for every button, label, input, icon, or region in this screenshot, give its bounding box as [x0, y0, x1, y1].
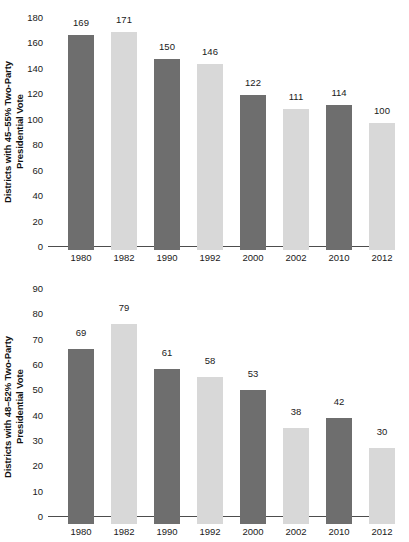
y-tick-bottom-10: 10 — [32, 485, 43, 496]
bar-bottom-2002[interactable] — [283, 428, 309, 524]
x-tick-top-2002: 2002 — [276, 252, 316, 263]
chart-panel-top: Districts with 45–55% Two-Party Presiden… — [0, 0, 409, 280]
bar-value-label-top-2000: 122 — [233, 77, 273, 88]
y-axis-title-bottom: Districts with 48–52% Two-Party Presiden… — [2, 292, 25, 522]
bar-value-label-top-1990: 150 — [147, 41, 187, 52]
bar-top-2012[interactable] — [369, 123, 395, 250]
y-tick-top-0: 0 — [38, 241, 43, 252]
y-axis-title-top: Districts with 45–55% Two-Party Presiden… — [2, 18, 25, 246]
bar-value-label-top-1980: 169 — [61, 17, 101, 28]
two-panel-bar-chart-figure: Districts with 45–55% Two-Party Presiden… — [0, 0, 409, 542]
x-tick-top-1990: 1990 — [147, 252, 187, 263]
bar-slot-top-2012 — [362, 14, 402, 250]
bar-value-label-top-1992: 146 — [190, 46, 230, 57]
bar-bottom-1982[interactable] — [111, 324, 137, 524]
y-tick-bottom-40: 40 — [32, 409, 43, 420]
bar-value-label-bottom-2002: 38 — [276, 406, 316, 417]
bar-top-1982[interactable] — [111, 32, 137, 250]
bar-value-label-bottom-1992: 58 — [190, 355, 230, 366]
bar-top-2010[interactable] — [326, 105, 352, 250]
x-tick-top-1982: 1982 — [104, 252, 144, 263]
x-tick-top-2000: 2000 — [233, 252, 273, 263]
bar-value-label-bottom-2000: 53 — [233, 368, 273, 379]
y-tick-bottom-60: 60 — [32, 359, 43, 370]
bar-value-label-bottom-1980: 69 — [61, 327, 101, 338]
bar-bottom-1992[interactable] — [197, 377, 223, 524]
bar-value-label-bottom-1990: 61 — [147, 347, 187, 358]
bar-top-2000[interactable] — [240, 95, 266, 250]
bar-top-1990[interactable] — [154, 59, 180, 250]
bar-value-label-top-2010: 114 — [319, 87, 359, 98]
chart-panel-bottom: Districts with 48–52% Two-Party Presiden… — [0, 280, 409, 542]
y-tick-bottom-70: 70 — [32, 333, 43, 344]
plot-area-top: 020406080100120140160180 169171150146122… — [48, 10, 398, 250]
bar-group-bottom: 6979615853384230 — [48, 284, 392, 524]
x-tick-top-1992: 1992 — [190, 252, 230, 263]
bar-value-label-top-2002: 111 — [276, 91, 316, 102]
plot-area-bottom: 0102030405060708090 6979615853384230 — [48, 284, 398, 524]
bar-value-label-bottom-1982: 79 — [104, 302, 144, 313]
x-tick-bottom-2002: 2002 — [276, 526, 316, 537]
x-tick-top-2010: 2010 — [319, 252, 359, 263]
bar-value-label-bottom-2012: 30 — [362, 426, 402, 437]
x-tick-bottom-2000: 2000 — [233, 526, 273, 537]
bar-top-1992[interactable] — [197, 64, 223, 250]
bar-value-label-top-1982: 171 — [104, 14, 144, 25]
bar-value-label-bottom-2010: 42 — [319, 396, 359, 407]
bar-slot-top-2002 — [276, 14, 316, 250]
x-tick-bottom-1982: 1982 — [104, 526, 144, 537]
y-tick-top-60: 60 — [32, 164, 43, 175]
y-tick-bottom-90: 90 — [32, 283, 43, 294]
x-tick-bottom-1980: 1980 — [61, 526, 101, 537]
bar-bottom-2012[interactable] — [369, 448, 395, 524]
bar-slot-bottom-1992 — [190, 292, 230, 524]
x-tick-top-1980: 1980 — [61, 252, 101, 263]
bar-slot-top-1980 — [61, 14, 101, 250]
x-tick-bottom-2010: 2010 — [319, 526, 359, 537]
y-tick-top-140: 140 — [27, 62, 43, 73]
y-tick-bottom-30: 30 — [32, 435, 43, 446]
x-tick-bottom-1990: 1990 — [147, 526, 187, 537]
bar-slot-bottom-2012 — [362, 292, 402, 524]
bar-slot-bottom-2000 — [233, 292, 273, 524]
bar-top-2002[interactable] — [283, 109, 309, 250]
y-tick-bottom-80: 80 — [32, 308, 43, 319]
bar-top-1980[interactable] — [68, 35, 94, 250]
y-tick-top-20: 20 — [32, 215, 43, 226]
x-tick-top-2012: 2012 — [362, 252, 402, 263]
bar-slot-bottom-2010 — [319, 292, 359, 524]
x-tick-bottom-2012: 2012 — [362, 526, 402, 537]
bar-slot-bottom-1990 — [147, 292, 187, 524]
bar-value-label-top-2012: 100 — [362, 105, 402, 116]
bar-slot-bottom-1982 — [104, 292, 144, 524]
y-tick-bottom-50: 50 — [32, 384, 43, 395]
bar-bottom-2010[interactable] — [326, 418, 352, 524]
y-tick-bottom-20: 20 — [32, 460, 43, 471]
bar-bottom-1980[interactable] — [68, 349, 94, 524]
y-tick-top-100: 100 — [27, 113, 43, 124]
bar-bottom-2000[interactable] — [240, 390, 266, 524]
y-tick-bottom-0: 0 — [38, 511, 43, 522]
y-tick-top-180: 180 — [27, 12, 43, 23]
y-tick-top-80: 80 — [32, 139, 43, 150]
bar-group-top: 169171150146122111114100 — [48, 10, 392, 250]
bar-slot-top-2010 — [319, 14, 359, 250]
x-tick-bottom-1992: 1992 — [190, 526, 230, 537]
bar-bottom-1990[interactable] — [154, 369, 180, 524]
bar-slot-top-2000 — [233, 14, 273, 250]
y-tick-top-120: 120 — [27, 88, 43, 99]
y-tick-top-160: 160 — [27, 37, 43, 48]
y-tick-top-40: 40 — [32, 190, 43, 201]
bar-slot-top-1982 — [104, 14, 144, 250]
